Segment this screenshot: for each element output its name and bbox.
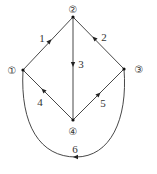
arrow-edge-6-icon bbox=[73, 155, 78, 159]
edge-label-4: 4 bbox=[37, 96, 43, 108]
edge-label-1: 1 bbox=[39, 32, 45, 44]
edge-4 bbox=[23, 70, 73, 120]
node-2 bbox=[71, 15, 74, 18]
edge-label-6: 6 bbox=[72, 143, 78, 155]
node-label-3: ③ bbox=[135, 64, 144, 75]
edge-1 bbox=[23, 17, 73, 70]
edge-label-3: 3 bbox=[78, 58, 84, 70]
node-4 bbox=[71, 118, 74, 121]
edge-label-2: 2 bbox=[101, 31, 107, 43]
edge-label-5: 5 bbox=[100, 97, 106, 109]
directed-graph: ① ② ③ ④ 1 2 3 4 5 6 bbox=[0, 0, 157, 174]
node-label-1: ① bbox=[8, 65, 17, 76]
node-3 bbox=[122, 67, 125, 70]
node-label-4: ④ bbox=[69, 126, 78, 137]
node-label-2: ② bbox=[69, 4, 78, 15]
arrow-edge-3-icon bbox=[71, 62, 75, 67]
node-1 bbox=[21, 68, 24, 71]
